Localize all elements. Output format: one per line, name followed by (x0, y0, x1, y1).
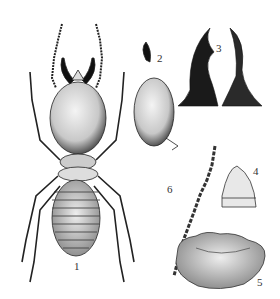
figure-label-2: 2 (157, 52, 163, 64)
figure-label-3: 3 (216, 42, 222, 54)
figure-4-labrum (222, 166, 256, 207)
figure-3-mandibles (178, 28, 262, 106)
termite-illustration: 1 2 3 6 4 5 (0, 0, 280, 299)
figure-label-5: 5 (257, 276, 263, 288)
illustration-plate: 1 2 3 6 4 5 (0, 0, 280, 299)
figure-label-1: 1 (74, 260, 80, 272)
figure-label-4: 4 (253, 165, 259, 177)
figure-2-head-lateral (134, 42, 178, 150)
figure-label-6: 6 (167, 183, 173, 195)
figure-5-pronotum (176, 232, 265, 288)
figure-1-soldier (22, 24, 134, 282)
